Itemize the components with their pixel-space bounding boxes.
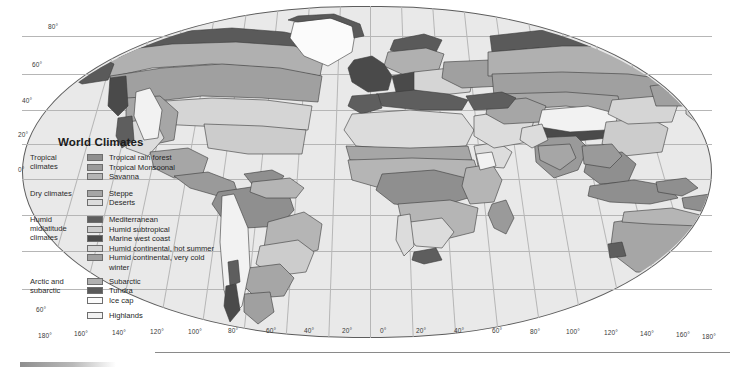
- lon-label-160e: 160°: [676, 331, 690, 338]
- map-plate: 80° 60° 40° 20° 0° 60° 180° 160° 140° 12…: [0, 0, 730, 345]
- lon-label-20w: 20°: [342, 327, 352, 334]
- legend-group-label: Dry climates: [30, 189, 82, 198]
- legend-item-label-continuation: winter: [109, 263, 280, 273]
- legend-swatch: [87, 297, 103, 304]
- lon-label-160w: 160°: [74, 330, 88, 337]
- legend-item-label: Marine west coast: [109, 234, 170, 244]
- legend-item-label: Savanna: [109, 172, 139, 182]
- legend-item-humid-continental-hot-summer[interactable]: Humid continental, hot summer: [87, 244, 280, 254]
- lon-label-100e: 100°: [566, 328, 580, 335]
- legend-item-label: Tropical rain forest: [109, 153, 172, 163]
- lon-label-120w: 120°: [150, 328, 164, 335]
- legend-item-highlands[interactable]: Highlands: [87, 311, 280, 321]
- legend-swatch: [87, 254, 103, 261]
- legend-swatch: [87, 190, 103, 197]
- legend-item-label: Subarctic: [109, 277, 141, 287]
- lon-label-0: 0°: [380, 327, 386, 334]
- legend-item-deserts[interactable]: Deserts: [87, 198, 280, 208]
- legend-item-label: Humid continental, very cold: [109, 253, 204, 263]
- lon-label-140w: 140°: [112, 329, 126, 336]
- legend-group-highlands: Highlands: [30, 311, 280, 321]
- legend-item-savanna[interactable]: Savanna: [87, 172, 280, 182]
- world-climates-map-page: 80° 60° 40° 20° 0° 60° 180° 160° 140° 12…: [0, 0, 730, 388]
- footer-rule: [155, 352, 730, 353]
- legend-group-dry: Dry climates Steppe Deserts: [30, 189, 280, 208]
- legend: World Climates Tropical climates Tropica…: [30, 136, 280, 325]
- legend-item-humid-subtropical[interactable]: Humid subtropical: [87, 225, 280, 235]
- lon-label-60e: 60°: [492, 327, 502, 334]
- legend-item-tropical-rain-forest[interactable]: Tropical rain forest: [87, 153, 280, 163]
- lon-label-180w: 180°: [38, 332, 52, 339]
- legend-title: World Climates: [58, 136, 280, 148]
- legend-group-tropical: Tropical climates Tropical rain forest T…: [30, 153, 280, 182]
- legend-item-label: Tropical Monsoonal: [109, 163, 175, 173]
- lon-label-80w: 80°: [228, 327, 238, 334]
- legend-item-subarctic[interactable]: Subarctic: [87, 277, 280, 287]
- legend-item-label: Tundra: [109, 286, 133, 296]
- lat-label-80n: 80°: [48, 23, 58, 30]
- legend-swatch: [87, 173, 103, 180]
- lon-label-100w: 100°: [188, 328, 202, 335]
- legend-group-label: Arctic and subarctic: [30, 277, 82, 295]
- lon-label-80e: 80°: [530, 328, 540, 335]
- legend-swatch: [87, 278, 103, 285]
- legend-item-tropical-monsoonal[interactable]: Tropical Monsoonal: [87, 163, 280, 173]
- legend-item-tundra[interactable]: Tundra: [87, 286, 280, 296]
- legend-item-label: Humid subtropical: [109, 225, 170, 235]
- legend-swatch: [87, 287, 103, 294]
- lon-label-140e: 140°: [640, 330, 654, 337]
- lon-label-120e: 120°: [604, 329, 618, 336]
- lat-label-equator: 0°: [18, 166, 24, 173]
- legend-swatch: [87, 312, 103, 319]
- legend-group-humid-midlatitude: Humid midlatitude climates Mediterranean…: [30, 215, 280, 273]
- lon-label-180e: 180°: [702, 333, 716, 340]
- legend-swatch: [87, 226, 103, 233]
- legend-item-label: Mediterranean: [109, 215, 158, 225]
- legend-group-label: Humid midlatitude climates: [30, 215, 82, 243]
- legend-swatch: [87, 154, 103, 161]
- lon-label-60w: 60°: [266, 327, 276, 334]
- legend-item-humid-continental-very-cold[interactable]: Humid continental, very cold: [87, 253, 280, 263]
- legend-group-label: Tropical climates: [30, 153, 82, 171]
- lon-label-20e: 20°: [416, 327, 426, 334]
- legend-group-arctic: Arctic and subarctic Subarctic Tundra Ic…: [30, 277, 280, 306]
- legend-item-steppe[interactable]: Steppe: [87, 189, 280, 199]
- legend-item-label: Humid continental, hot summer: [109, 244, 214, 254]
- legend-swatch: [87, 245, 103, 252]
- lat-label-20n: 20°: [18, 131, 28, 138]
- lat-label-60n: 60°: [32, 61, 42, 68]
- lat-label-40n: 40°: [22, 97, 32, 104]
- legend-item-marine-west-coast[interactable]: Marine west coast: [87, 234, 280, 244]
- legend-item-mediterranean[interactable]: Mediterranean: [87, 215, 280, 225]
- legend-swatch: [87, 216, 103, 223]
- legend-swatch: [87, 199, 103, 206]
- legend-item-label: Highlands: [109, 311, 143, 321]
- legend-item-label: Steppe: [109, 189, 133, 199]
- legend-item-label: Deserts: [109, 198, 135, 208]
- legend-swatch: [87, 164, 103, 171]
- legend-swatch: [87, 235, 103, 242]
- legend-item-ice-cap[interactable]: Ice cap: [87, 296, 280, 306]
- footer-gradient-bar: [20, 362, 116, 367]
- lon-label-40w: 40°: [304, 327, 314, 334]
- legend-item-label: Ice cap: [109, 296, 133, 306]
- lon-label-40e: 40°: [454, 327, 464, 334]
